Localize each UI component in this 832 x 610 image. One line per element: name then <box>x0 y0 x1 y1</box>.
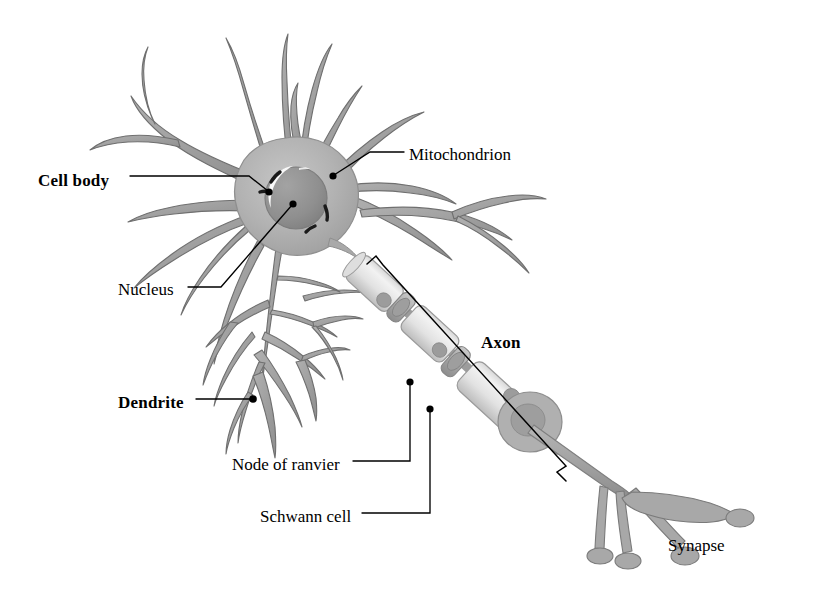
neuron-illustration <box>0 0 832 610</box>
leader-node-of-ranvier <box>353 385 410 461</box>
label-mitochondrion: Mitochondrion <box>409 146 511 163</box>
leader-dot-mitochondrion <box>329 172 336 179</box>
leader-dot-schwann-cell <box>426 405 433 412</box>
synaptic-bouton <box>615 553 641 569</box>
synaptic-bouton <box>726 509 754 527</box>
soma <box>235 137 360 260</box>
distal-axon <box>528 425 630 500</box>
label-schwann-cell: Schwann cell <box>260 508 351 525</box>
axon-terminals <box>587 486 754 569</box>
leader-schwann-cell <box>362 412 430 513</box>
label-cell-body: Cell body <box>38 172 109 189</box>
label-synapse: Synapse <box>668 537 725 554</box>
leader-dot-cell-body <box>265 188 272 195</box>
label-node-of-ranvier: Node of ranvier <box>232 456 340 473</box>
leader-dot-node-of-ranvier <box>406 378 413 385</box>
neuron-diagram-canvas: Cell body Mitochondrion Nucleus Axon Den… <box>0 0 832 610</box>
label-nucleus: Nucleus <box>118 281 174 298</box>
leader-dot-nucleus <box>289 200 296 207</box>
axon-with-myelin <box>340 249 630 500</box>
label-dendrite: Dendrite <box>118 394 184 411</box>
synaptic-bouton <box>587 548 613 564</box>
leader-dot-dendrite <box>249 395 257 403</box>
label-axon: Axon <box>481 334 521 351</box>
